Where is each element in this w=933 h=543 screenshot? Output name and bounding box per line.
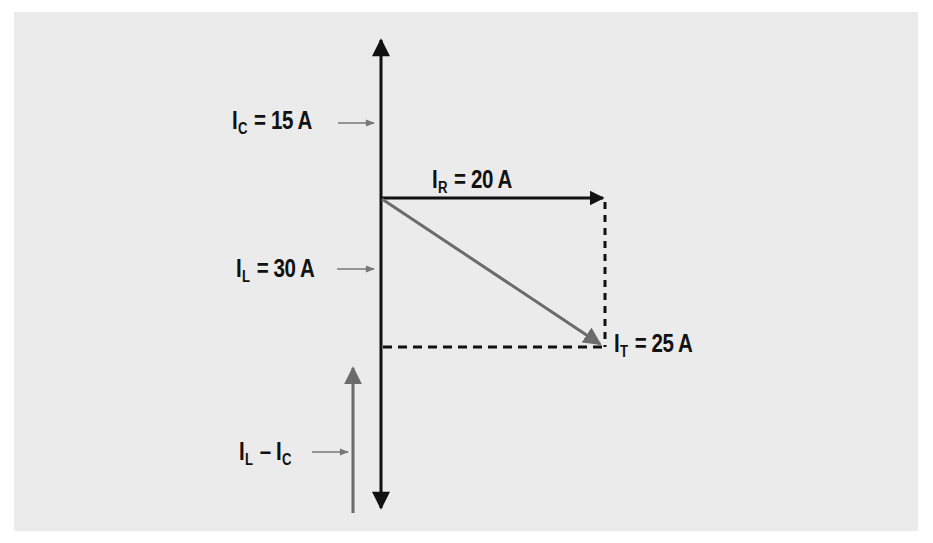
il-minus-ic-label: IL – IC [239,439,293,464]
il-minus-ic-symbol2: I [276,437,281,465]
ir-value: 20 A [471,165,512,193]
ir-subscript: R [438,179,447,196]
il-subscript: L [242,268,250,285]
ir-label: IR = 20 A [432,167,512,192]
ic-subscript: C [238,120,247,137]
it-equals: = [635,329,647,357]
il-minus-ic-subscript2: C [282,451,291,468]
it-resultant-arrow [382,199,600,344]
ic-label: IC = 15 A [232,108,312,133]
it-symbol: I [614,329,619,357]
ir-equals: = [454,165,466,193]
it-subscript: T [620,343,628,360]
il-minus-ic-subscript1: L [245,451,253,468]
ir-symbol: I [432,165,437,193]
il-minus-ic-symbol1: I [239,437,244,465]
ic-value: 15 A [271,106,312,134]
il-minus-ic-minus: – [260,437,271,465]
phasor-diagram [0,0,933,543]
il-label: IL = 30 A [236,256,314,281]
ic-equals: = [254,106,266,134]
it-label: IT = 25 A [614,331,692,356]
ic-symbol: I [232,106,237,134]
il-value: 30 A [274,254,315,282]
il-symbol: I [236,254,241,282]
il-equals: = [257,254,269,282]
it-value: 25 A [652,329,693,357]
